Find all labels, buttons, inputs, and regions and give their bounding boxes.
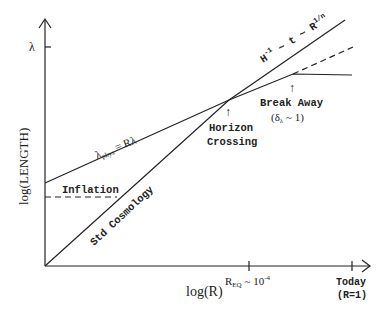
lambda-phys-label: λphys = Rλ: [93, 133, 139, 162]
horizon-crossing-arrow-icon: ↑: [225, 105, 231, 119]
x-tick-today: Today: [336, 277, 366, 288]
break-away-label-1: Break Away: [260, 97, 324, 109]
y-axis-label: log(LENGTH): [16, 128, 31, 205]
x-axis: log(R) REQ ~ 10-4 Today (R=1): [45, 260, 370, 301]
break-away-label-2: (δλ ~ 1): [271, 111, 304, 125]
x-axis-label: log(R): [186, 284, 223, 300]
horizon-crossing-label-2: Crossing: [207, 136, 257, 148]
lambda-phys-extrapolation: [293, 47, 353, 74]
x-tick-today-sub: (R=1): [337, 290, 367, 301]
break-away-arrow-icon: ↑: [289, 81, 295, 95]
hubble-radius-line: [45, 20, 345, 266]
cosmology-length-diagram: λ log(LENGTH) log(R) REQ ~ 10-4 Today (R…: [0, 0, 385, 314]
x-tick-req: REQ ~ 10-4: [225, 274, 270, 289]
horizon-crossing-label-1: Horizon: [209, 122, 253, 134]
inflation-label: Inflation: [62, 184, 119, 196]
y-tick-lambda: λ: [29, 40, 35, 54]
y-axis: λ log(LENGTH): [16, 19, 51, 266]
lambda-phys-line: [45, 74, 352, 183]
